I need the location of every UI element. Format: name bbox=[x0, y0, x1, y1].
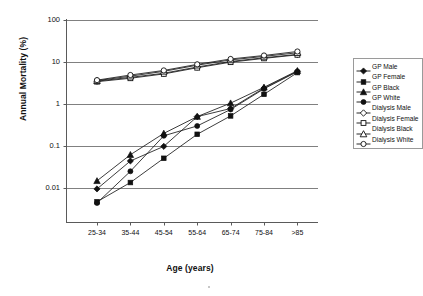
legend-item[interactable]: GP Female bbox=[356, 72, 422, 82]
legend-item[interactable]: Dialysis Male bbox=[356, 104, 422, 114]
y-axis-title: Annual Mortality (%) bbox=[18, 14, 28, 144]
data-point-marker bbox=[261, 53, 266, 58]
x-axis-title: Age (years) bbox=[60, 263, 320, 273]
data-point-marker bbox=[195, 123, 200, 128]
series-markers bbox=[94, 49, 301, 206]
legend-item[interactable]: Dialysis White bbox=[356, 135, 422, 145]
y-tick-label: 10 bbox=[26, 58, 60, 66]
open-diamond-icon bbox=[356, 104, 371, 114]
data-point-marker bbox=[227, 100, 233, 106]
legend-item-label: GP Black bbox=[371, 85, 399, 92]
data-point-marker bbox=[162, 156, 167, 161]
data-point-marker bbox=[128, 169, 133, 174]
open-square-icon bbox=[356, 114, 371, 124]
open-circle-icon bbox=[356, 135, 371, 145]
data-point-marker bbox=[228, 107, 233, 112]
data-point-marker bbox=[295, 69, 300, 74]
filled-square-icon bbox=[356, 73, 371, 83]
data-point-marker bbox=[228, 56, 233, 61]
legend-item[interactable]: Dialysis Female bbox=[356, 114, 422, 124]
data-point-marker bbox=[127, 152, 133, 158]
data-point-marker bbox=[94, 78, 99, 83]
data-point-marker bbox=[262, 92, 267, 97]
legend-item-label: GP Female bbox=[371, 74, 405, 81]
y-tick-label: 100 bbox=[26, 16, 60, 24]
data-point-marker bbox=[262, 86, 267, 91]
data-point-marker bbox=[195, 62, 200, 67]
filled-diamond-icon bbox=[356, 62, 371, 72]
data-point-marker bbox=[128, 72, 133, 77]
y-tick-label: 1 bbox=[26, 100, 60, 108]
data-point-marker bbox=[94, 178, 100, 184]
legend-item-label: GP White bbox=[371, 95, 400, 102]
data-point-marker bbox=[128, 180, 133, 185]
legend-item-label: Dialysis Black bbox=[371, 126, 413, 133]
legend-item-label: Dialysis Male bbox=[371, 105, 411, 112]
x-tick-label: >85 bbox=[277, 229, 317, 236]
legend-item[interactable]: GP Black bbox=[356, 83, 422, 93]
data-point-marker bbox=[195, 132, 200, 137]
data-point-marker bbox=[295, 49, 300, 54]
legend-item-label: Dialysis Female bbox=[371, 116, 419, 123]
series-line bbox=[97, 71, 297, 189]
data-point-marker bbox=[161, 68, 166, 73]
gridlines bbox=[67, 21, 319, 189]
legend-item-label: Dialysis White bbox=[371, 137, 413, 144]
axis-tickmarks bbox=[64, 21, 298, 226]
legend-item-label: GP Male bbox=[371, 64, 398, 71]
data-point-marker bbox=[95, 200, 100, 205]
legend-item[interactable]: GP Male bbox=[356, 62, 422, 72]
scan-artifact-dot bbox=[208, 286, 210, 288]
series-line bbox=[97, 72, 297, 203]
open-triangle-icon bbox=[356, 125, 371, 135]
data-point-marker bbox=[161, 133, 166, 138]
filled-triangle-icon bbox=[356, 83, 371, 93]
series-line bbox=[97, 73, 297, 202]
data-point-marker bbox=[228, 114, 233, 119]
y-tick-label: 0.01 bbox=[26, 184, 60, 192]
filled-circle-icon bbox=[356, 93, 371, 103]
legend-item[interactable]: Dialysis Black bbox=[356, 124, 422, 134]
legend-item[interactable]: GP White bbox=[356, 93, 422, 103]
y-tick-label: 0.1 bbox=[26, 142, 60, 150]
chart-legend: GP MaleGP FemaleGP BlackGP WhiteDialysis… bbox=[353, 58, 423, 149]
